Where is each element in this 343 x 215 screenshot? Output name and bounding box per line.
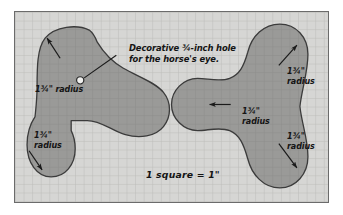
eye-hole-note-line1: Decorative ¾-inch hole	[129, 43, 236, 53]
right-top-radius-line2: radius	[287, 77, 315, 86]
eye-hole-note-label: Decorative ¾-inch hole for the horse's e…	[129, 43, 259, 64]
right-top-radius-line1: 1¾"	[287, 67, 305, 76]
left-bottom-radius-line2: radius	[34, 141, 62, 150]
left-bottom-radius-label: 1¾" radius	[34, 131, 62, 150]
right-bottom-radius-label: 1¾" radius	[287, 132, 315, 151]
middle-radius-line1: 1¾"	[242, 107, 260, 116]
eye-hole-note-line2: for the horse's eye.	[129, 54, 219, 64]
right-top-radius-label: 1¾" radius	[287, 67, 315, 86]
right-bottom-radius-line1: 1¾"	[287, 132, 305, 141]
left-top-radius-label: 1¾" radius	[35, 85, 83, 95]
left-bottom-radius-line1: 1¾"	[34, 131, 52, 140]
scale-caption: 1 square = 1"	[146, 170, 220, 180]
middle-radius-label: 1¾" radius	[242, 107, 270, 126]
figure-root: Decorative ¾-inch hole for the horse's e…	[0, 0, 343, 215]
grid-figure-panel: Decorative ¾-inch hole for the horse's e…	[14, 11, 329, 203]
middle-radius-line2: radius	[242, 117, 270, 126]
right-bottom-radius-line2: radius	[287, 142, 315, 151]
eye-hole	[77, 77, 84, 84]
